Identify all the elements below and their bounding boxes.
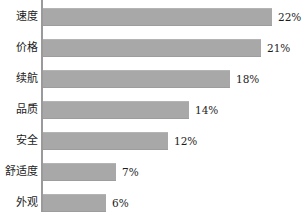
category-label: 品质 [0, 101, 38, 119]
category-label: 续航 [0, 70, 38, 88]
bar-row: 舒适度 7% [0, 163, 302, 181]
value-label: 6% [112, 194, 129, 212]
bar-row: 品质 14% [0, 101, 302, 119]
value-label: 12% [174, 132, 197, 150]
value-label: 21% [267, 39, 290, 57]
bar-segment [43, 101, 189, 119]
bar-segment [43, 70, 230, 88]
category-label: 安全 [0, 132, 38, 150]
bar-row: 速度 22% [0, 8, 302, 26]
bar-row: 价格 21% [0, 39, 302, 57]
bar-row: 续航 18% [0, 70, 302, 88]
value-label: 18% [236, 70, 259, 88]
bar-segment [43, 163, 116, 181]
bar-segment [43, 132, 168, 150]
value-label: 7% [122, 163, 139, 181]
category-label: 价格 [0, 39, 38, 57]
value-label: 22% [278, 8, 301, 26]
horizontal-bar-chart: 速度 22% 价格 21% 续航 18% 品质 14% 安全 12% 舒适度 7… [0, 0, 302, 219]
category-label: 外观 [0, 194, 38, 212]
category-label: 舒适度 [0, 163, 38, 181]
bar-segment [43, 39, 261, 57]
bar-segment [43, 8, 272, 26]
category-label: 速度 [0, 8, 38, 26]
bar-row: 外观 6% [0, 194, 302, 212]
bar-segment [43, 194, 106, 212]
value-label: 14% [195, 101, 218, 119]
bar-row: 安全 12% [0, 132, 302, 150]
